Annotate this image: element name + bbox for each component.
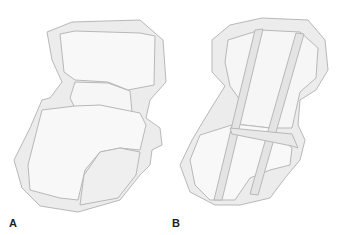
anatomical-figure: A B — [0, 0, 341, 235]
panel-a-drawing — [14, 20, 166, 212]
illustration-canvas — [0, 0, 341, 235]
panel-label-a: A — [9, 218, 17, 229]
panel-label-b: B — [172, 218, 180, 229]
panel-b-drawing — [180, 18, 328, 205]
